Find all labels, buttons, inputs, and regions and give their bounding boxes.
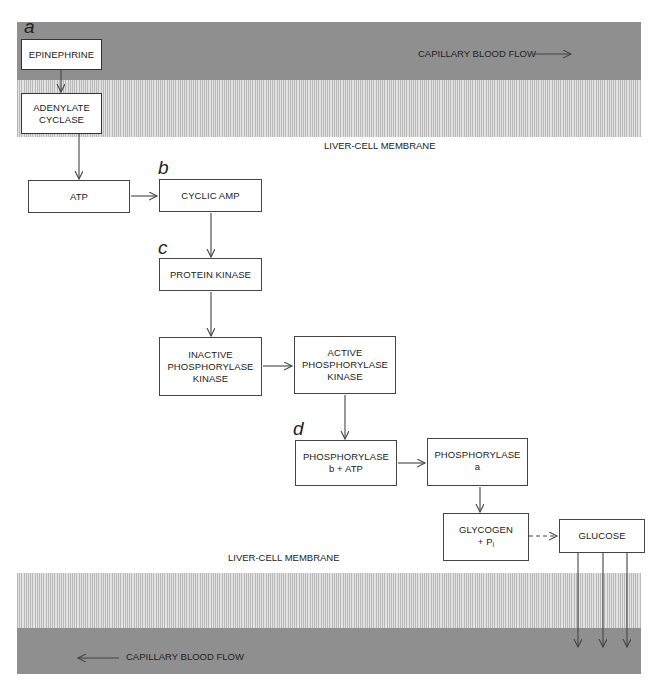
node-phosphorylase-a-line2: a bbox=[434, 461, 520, 473]
node-phosphorylase-b-line2: b + ATP bbox=[303, 463, 389, 475]
node-adenylate-cyclase-line2: CYCLASE bbox=[33, 114, 90, 126]
node-cyclic-amp: CYCLIC AMP bbox=[159, 179, 262, 212]
node-phosphorylase-b-line1: PHOSPHORYLASE bbox=[303, 451, 389, 463]
node-glycogen-line1: GLYCOGEN bbox=[459, 524, 513, 536]
node-glycogen-line2: + P bbox=[478, 536, 493, 547]
node-epinephrine-label: EPINEPHRINE bbox=[29, 49, 95, 61]
node-glycogen: GLYCOGEN + Pi bbox=[443, 513, 529, 561]
node-inactive-pk-line3: KINASE bbox=[167, 373, 253, 385]
node-atp-label: ATP bbox=[70, 191, 88, 203]
node-adenylate-cyclase-line1: ADENYLATE bbox=[33, 102, 90, 114]
node-inactive-phosphorylase-kinase: INACTIVE PHOSPHORYLASE KINASE bbox=[159, 337, 262, 396]
node-glycogen-subscript: i bbox=[493, 541, 495, 548]
node-cyclic-amp-label: CYCLIC AMP bbox=[181, 190, 240, 202]
node-glucose-label: GLUCOSE bbox=[578, 530, 625, 542]
node-phosphorylase-a: PHOSPHORYLASE a bbox=[427, 438, 528, 486]
node-atp: ATP bbox=[28, 180, 130, 213]
node-inactive-pk-line1: INACTIVE bbox=[167, 349, 253, 361]
node-protein-kinase: PROTEIN KINASE bbox=[159, 258, 262, 291]
node-glucose: GLUCOSE bbox=[559, 519, 645, 553]
node-phosphorylase-a-line1: PHOSPHORYLASE bbox=[434, 449, 520, 461]
node-epinephrine: EPINEPHRINE bbox=[21, 39, 102, 70]
node-active-pk-line2: PHOSPHORYLASE bbox=[302, 359, 388, 371]
node-active-pk-line1: ACTIVE bbox=[302, 347, 388, 359]
node-active-phosphorylase-kinase: ACTIVE PHOSPHORYLASE KINASE bbox=[294, 336, 396, 394]
node-phosphorylase-b: PHOSPHORYLASE b + ATP bbox=[295, 440, 397, 486]
node-inactive-pk-line2: PHOSPHORYLASE bbox=[167, 361, 253, 373]
node-adenylate-cyclase: ADENYLATE CYCLASE bbox=[21, 93, 102, 134]
node-active-pk-line3: KINASE bbox=[302, 371, 388, 383]
node-protein-kinase-label: PROTEIN KINASE bbox=[170, 269, 251, 281]
